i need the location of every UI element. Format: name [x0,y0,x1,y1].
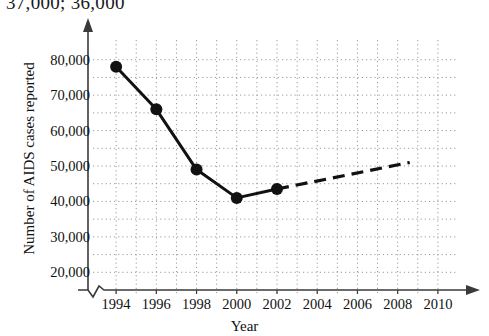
x-tick-label: 2008 [383,296,412,313]
y-tick-label: 20,000 [50,264,90,281]
x-tick-label: 2000 [222,296,251,313]
x-tick-label: 2010 [423,296,452,313]
aids-cases-line-chart: 37,000; 36,000 Number of AIDS cases repo… [0,0,489,336]
data-point-marker[interactable] [231,192,243,204]
y-tick-label: 70,000 [50,87,90,104]
y-tick-label: 80,000 [50,51,90,68]
y-axis-arrow-icon [83,18,93,32]
y-tick-label: 40,000 [50,193,90,210]
y-tick-label: 60,000 [50,122,90,139]
x-tick-label: 2006 [343,296,372,313]
x-tick-label: 1994 [102,296,131,313]
x-tick-label: 1998 [182,296,211,313]
data-point-marker[interactable] [110,61,122,73]
x-axis-arrow-icon [466,285,480,295]
y-tick-label: 50,000 [50,158,90,175]
x-tick-label: 2004 [303,296,332,313]
x-tick-label: 2002 [263,296,292,313]
x-tick-label: 1996 [142,296,171,313]
data-point-marker[interactable] [191,164,203,176]
data-point-marker[interactable] [150,103,162,115]
y-tick-label: 30,000 [50,228,90,245]
